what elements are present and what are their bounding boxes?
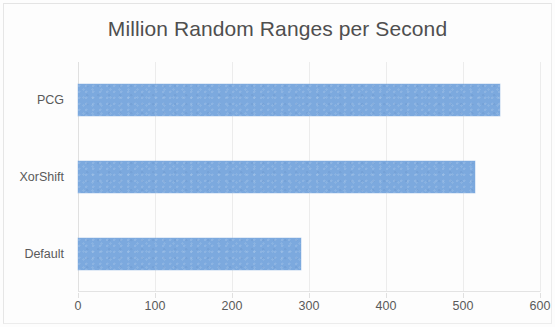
- x-axis-tick-200: [232, 293, 233, 298]
- x-axis-label-100: 100: [145, 299, 166, 313]
- bar-series: [78, 62, 540, 292]
- x-axis-line: [78, 291, 540, 292]
- y-axis-label-xorshift: XorShift: [20, 170, 64, 184]
- y-axis-label-pcg: PCG: [37, 93, 64, 107]
- x-axis-label-300: 300: [299, 299, 320, 313]
- x-axis-tick-100: [155, 293, 156, 298]
- chart-container: Million Random Ranges per Second PCGXorS…: [0, 0, 555, 327]
- gridline-600: [540, 62, 541, 292]
- bar-pcg: [78, 84, 500, 116]
- x-axis-tick-400: [386, 293, 387, 298]
- x-axis-label-500: 500: [453, 299, 474, 313]
- x-axis-tick-labels: 0100200300400500600: [78, 299, 540, 319]
- x-axis-tick-0: [78, 293, 79, 298]
- x-axis-label-0: 0: [75, 299, 82, 313]
- x-axis-tick-600: [540, 293, 541, 298]
- x-axis-label-200: 200: [222, 299, 243, 313]
- x-axis-label-400: 400: [376, 299, 397, 313]
- x-axis-label-600: 600: [530, 299, 551, 313]
- bar-xorshift: [78, 161, 475, 193]
- chart-title: Million Random Ranges per Second: [0, 17, 555, 41]
- x-axis-tick-300: [309, 293, 310, 298]
- plot-area: [78, 62, 540, 292]
- bar-default: [78, 238, 301, 270]
- x-axis-tick-500: [463, 293, 464, 298]
- y-axis-label-default: Default: [24, 247, 64, 261]
- y-axis-category-labels: PCGXorShiftDefault: [0, 62, 72, 292]
